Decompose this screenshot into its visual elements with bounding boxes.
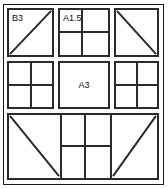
block-middle-right xyxy=(114,61,159,109)
block-middle-left xyxy=(7,61,54,109)
bottom-band-right-section xyxy=(112,115,157,178)
block-top-left-label: B3 xyxy=(12,13,23,23)
divider-horizontal xyxy=(60,145,112,147)
bottom-band-left-section xyxy=(9,115,60,178)
block-top-center: A1.5 xyxy=(58,8,110,57)
block-top-left: B3 xyxy=(7,8,54,57)
block-layout-diagram: B3 A1.5 A3 xyxy=(0,0,168,189)
divider-horizontal xyxy=(116,84,157,86)
diagram-outer-frame: B3 A1.5 A3 xyxy=(3,4,164,185)
bottom-band-center-section xyxy=(60,115,112,178)
block-top-right xyxy=(114,8,159,57)
block-middle-center: A3 xyxy=(58,61,110,109)
divider-horizontal xyxy=(60,31,108,33)
block-top-center-label: A1.5 xyxy=(63,13,82,23)
divider-horizontal xyxy=(9,84,52,86)
block-middle-center-label: A3 xyxy=(60,80,108,90)
diagonal-line-icon xyxy=(116,10,157,55)
diagonal-line-icon xyxy=(112,115,157,178)
bottom-band xyxy=(7,113,159,180)
diagonal-line-icon xyxy=(9,115,60,178)
